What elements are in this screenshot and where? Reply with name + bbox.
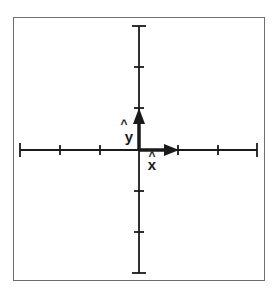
y-hat-label: ^ y	[120, 117, 133, 145]
svg-text:y: y	[125, 128, 134, 145]
x-hat-vector	[139, 144, 179, 156]
x-hat-arrowhead-icon	[164, 144, 179, 156]
y-hat-arrowhead-icon	[133, 108, 145, 124]
x-hat-label: ^ x	[148, 149, 157, 173]
unit-vector-diagram: ^ y ^ x	[0, 0, 276, 294]
y-hat-vector	[133, 108, 145, 150]
svg-text:x: x	[148, 156, 157, 173]
